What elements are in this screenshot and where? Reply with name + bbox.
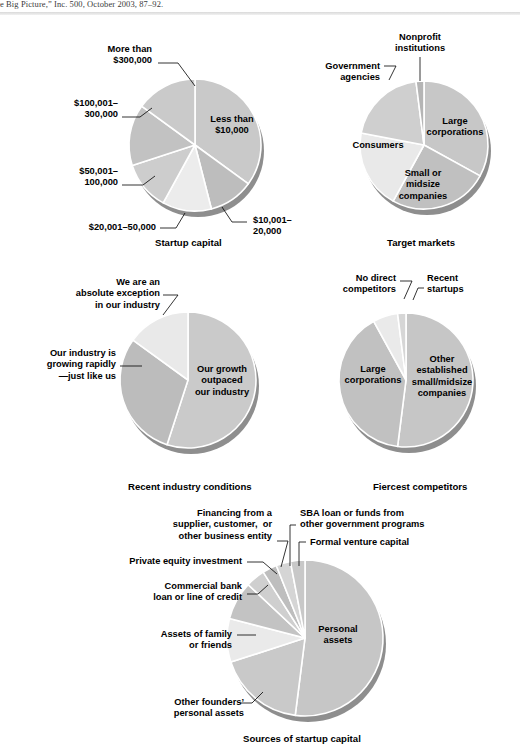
figure-page: e Big Picture,” Inc. 500, October 2003, … — [0, 0, 520, 746]
callout-label-sba-loan: SBA loan or funds from other government … — [300, 508, 460, 531]
callout-label-formal-venture-capital: Formal venture capital — [310, 537, 440, 548]
callout-label-private-equity-investment: Private equity investment — [112, 556, 242, 567]
callout-label-assets-of-family-or-friends: Assets of family or friends — [122, 629, 232, 652]
pie-chart-sources-of-startup-capital: PersonalassetsFinancing from a supplier,… — [0, 0, 520, 746]
callout-label-financing-from-supplier: Financing from a supplier, customer, or … — [130, 508, 272, 542]
callout-label-commercial-bank-loan: Commercial bank loan or line of credit — [118, 581, 242, 604]
callout-label-other-founders-personal-assets: Other founders’ personal assets — [138, 697, 244, 720]
slice-label: Personalassets — [318, 624, 357, 645]
pie-canvas-sources-of-startup-capital: Personalassets — [0, 0, 520, 746]
chart-title-sources-of-startup-capital: Sources of startup capital — [243, 733, 361, 744]
